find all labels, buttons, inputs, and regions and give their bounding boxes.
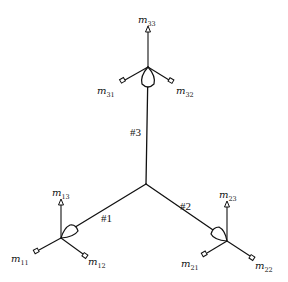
joint-3-assembly: [120, 26, 174, 87]
cone-lobe-2: [211, 227, 227, 241]
m22-branch: [227, 241, 250, 256]
m21-branch: [207, 241, 227, 253]
label-m13: m13: [52, 187, 70, 201]
arm-1-label: #1: [101, 212, 112, 224]
m11-tip: [33, 248, 39, 254]
m21-tip: [201, 251, 207, 257]
label-m32: m32: [176, 85, 194, 99]
label-m23: m23: [219, 189, 237, 203]
label-m21: m21: [181, 258, 199, 272]
label-m33: m33: [138, 14, 156, 28]
label-m12: m12: [88, 256, 106, 270]
m31-tip: [120, 77, 126, 83]
branched-diagram: #3 #1 #2 m33 m31 m32 m13 m11 m12 m23 m21…: [0, 0, 288, 282]
joint-1-assembly: [33, 199, 88, 258]
joint-2-assembly: [201, 201, 255, 260]
m32-tip: [168, 78, 174, 84]
label-m22: m22: [255, 260, 273, 274]
label-m11: m11: [11, 253, 29, 267]
arm-2-label: #2: [180, 200, 191, 212]
arm-3-label: #3: [130, 126, 142, 138]
diagram-canvas: #3 #1 #2 m33 m31 m32 m13 m11 m12 m23 m21…: [0, 0, 288, 282]
m12-branch: [61, 238, 83, 254]
label-m31: m31: [97, 85, 115, 99]
cone-lobe-1: [61, 225, 78, 238]
m11-branch: [39, 238, 61, 250]
